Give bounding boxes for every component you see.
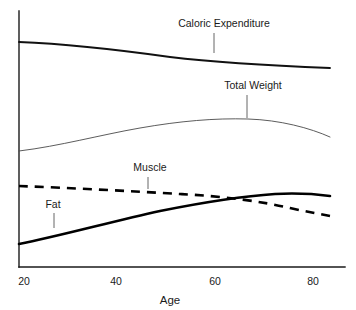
series-label-fat: Fat [45,198,60,210]
series-line-total-weight [19,119,330,151]
series-label-caloric-expenditure: Caloric Expenditure [178,17,270,29]
x-axis-title: Age [160,294,180,306]
xtick-label-20: 20 [18,275,30,287]
xtick-label-40: 40 [110,275,122,287]
line-chart-figure: Caloric Expenditure Total Weight Muscle … [0,0,356,310]
series-line-fat [19,194,330,244]
series-line-caloric-expenditure [19,42,330,68]
xtick-label-60: 60 [209,275,221,287]
xtick-label-80: 80 [307,275,319,287]
chart-container: Caloric Expenditure Total Weight Muscle … [0,0,356,310]
series-line-muscle [19,186,330,216]
series-label-total-weight: Total Weight [224,79,282,91]
series-label-muscle: Muscle [133,161,166,173]
